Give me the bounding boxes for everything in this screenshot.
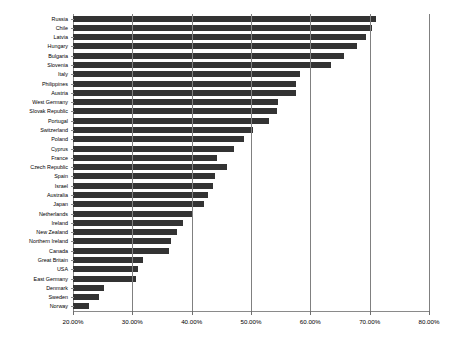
x-axis-tick-label: 20.00%	[63, 318, 84, 326]
y-axis-tick-mark	[71, 149, 74, 150]
bar	[73, 155, 217, 161]
y-axis-label: Japan	[53, 201, 68, 207]
bar	[73, 62, 331, 68]
y-axis-tick-mark	[71, 232, 74, 233]
y-axis-tick-mark	[71, 176, 74, 177]
bar	[73, 16, 376, 22]
bar	[73, 285, 104, 291]
bar	[73, 118, 269, 124]
y-axis-tick-mark	[71, 186, 74, 187]
bar	[73, 108, 277, 114]
y-axis-label: Switzerland	[40, 127, 68, 133]
y-axis-tick-mark	[71, 297, 74, 298]
bar	[73, 99, 278, 105]
bar	[73, 25, 372, 31]
x-axis-tick-mark	[370, 311, 371, 315]
y-axis-label: Russia	[52, 16, 68, 22]
gridline-70	[370, 14, 371, 311]
bar	[73, 53, 344, 59]
plot-area	[73, 14, 429, 311]
y-axis-label: Austria	[51, 90, 68, 96]
y-axis-label: New Zealand	[36, 229, 68, 235]
bar	[73, 136, 244, 142]
y-axis-category-labels: RussiaChileLatviaHungaryBulgariaSlovenia…	[0, 14, 71, 311]
y-axis-tick-mark	[71, 167, 74, 168]
y-axis-label: Chile	[56, 25, 68, 31]
y-axis-tick-mark	[71, 84, 74, 85]
y-axis-label: Poland	[51, 136, 68, 142]
y-axis-label: Hungary	[48, 43, 68, 49]
x-axis-tick-label: 30.00%	[122, 318, 143, 326]
bar	[73, 201, 204, 207]
y-axis-tick-mark	[71, 204, 74, 205]
gridline-50	[251, 14, 252, 311]
y-axis-label: Slovenia	[47, 62, 68, 68]
bar	[73, 276, 136, 282]
bar	[73, 303, 89, 309]
y-axis-label: USA	[57, 266, 68, 272]
bar	[73, 71, 300, 77]
x-axis-tick-label: 60.00%	[300, 318, 321, 326]
y-axis-tick-mark	[71, 306, 74, 307]
y-axis-tick-mark	[71, 130, 74, 131]
y-axis-label: Czech Republic	[30, 164, 68, 170]
y-axis-tick-mark	[71, 269, 74, 270]
y-axis-label: Canada	[49, 248, 68, 254]
x-axis-tick-mark	[192, 311, 193, 315]
y-axis-label: Australia	[47, 192, 68, 198]
y-axis-tick-mark	[71, 93, 74, 94]
y-axis-tick-mark	[71, 111, 74, 112]
gridline-80	[429, 14, 430, 311]
y-axis-tick-mark	[71, 19, 74, 20]
bar	[73, 266, 138, 272]
y-axis-tick-mark	[71, 121, 74, 122]
x-axis-tick-label: 70.00%	[359, 318, 380, 326]
y-axis-label: Bulgaria	[48, 53, 68, 59]
x-axis-tick-mark	[132, 311, 133, 315]
y-axis-label: Northern Ireland	[29, 238, 68, 244]
y-axis-tick-mark	[71, 46, 74, 47]
y-axis-label: Spain	[54, 173, 68, 179]
y-axis-label: Italy	[58, 71, 68, 77]
y-axis-label: Great Britain	[38, 257, 68, 263]
gridline-30	[132, 14, 133, 311]
y-axis-tick-mark	[71, 37, 74, 38]
x-axis-tick-label: 50.00%	[241, 318, 262, 326]
x-axis-tick-label: 40.00%	[181, 318, 202, 326]
y-axis-tick-mark	[71, 288, 74, 289]
y-axis-label: Latvia	[54, 34, 68, 40]
y-axis-tick-mark	[71, 251, 74, 252]
gridline-40	[192, 14, 193, 311]
bar	[73, 192, 208, 198]
y-axis-label: France	[51, 155, 68, 161]
x-axis-tick-mark	[251, 311, 252, 315]
y-axis-tick-mark	[71, 260, 74, 261]
bar	[73, 220, 183, 226]
bar	[73, 164, 227, 170]
bar	[73, 248, 169, 254]
y-axis-tick-mark	[71, 241, 74, 242]
y-axis-label: Denmark	[46, 285, 68, 291]
bar	[73, 146, 234, 152]
bar	[73, 127, 253, 133]
y-axis-label: Netherlands	[39, 211, 68, 217]
y-axis-label: Philippines	[42, 81, 68, 87]
x-axis-tick-label: 80.00%	[419, 318, 440, 326]
gridline-60	[310, 14, 311, 311]
bar	[73, 43, 357, 49]
bar	[73, 173, 215, 179]
bar	[73, 229, 177, 235]
bar-chart: RussiaChileLatviaHungaryBulgariaSlovenia…	[0, 0, 453, 348]
x-axis-tick-mark	[310, 311, 311, 315]
x-axis-tick-mark	[73, 311, 74, 315]
y-axis-tick-mark	[71, 214, 74, 215]
y-axis-tick-mark	[71, 139, 74, 140]
y-axis-label: East Germany	[34, 276, 68, 282]
y-axis-label: West Germany	[32, 99, 68, 105]
bar	[73, 81, 296, 87]
y-axis-label: Portugal	[48, 118, 68, 124]
bar	[73, 90, 296, 96]
y-axis-label: Cyprus	[51, 146, 68, 152]
y-axis-label: Israel	[55, 183, 68, 189]
y-axis-tick-mark	[71, 28, 74, 29]
